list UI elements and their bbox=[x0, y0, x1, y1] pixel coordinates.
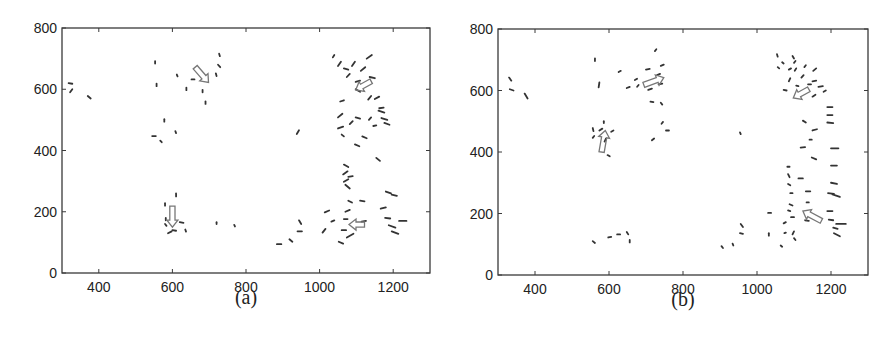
panel-caption-b: (b) bbox=[671, 288, 694, 311]
plot-area-b: 400600800100012000200400600800 bbox=[470, 21, 868, 297]
motion-vector bbox=[784, 222, 786, 223]
y-tick-label: 600 bbox=[470, 83, 494, 99]
motion-vector bbox=[790, 204, 793, 205]
motion-vector bbox=[740, 233, 743, 234]
motion-vector bbox=[593, 136, 594, 138]
motion-vector bbox=[619, 71, 621, 72]
motion-vector bbox=[813, 129, 817, 130]
motion-vector bbox=[788, 184, 790, 185]
motion-vector bbox=[331, 220, 334, 221]
motion-vector bbox=[805, 220, 809, 221]
panel-b: 400600800100012000200400600800 (b) bbox=[470, 21, 868, 311]
motion-vector bbox=[160, 141, 161, 143]
x-tick-label: 1200 bbox=[378, 279, 409, 295]
motion-vector bbox=[627, 232, 628, 234]
motion-vector bbox=[650, 102, 653, 103]
panel-caption-a: (a) bbox=[235, 286, 257, 309]
motion-vector bbox=[69, 83, 73, 84]
motion-vector bbox=[608, 237, 611, 238]
x-tick-label: 1000 bbox=[304, 279, 335, 295]
figure: 400600800100012000200400600800 (a) 40060… bbox=[0, 0, 893, 350]
motion-vector bbox=[829, 220, 833, 221]
motion-vector bbox=[655, 49, 656, 51]
motion-vector bbox=[356, 117, 360, 118]
motion-vector bbox=[648, 89, 652, 90]
motion-vector bbox=[824, 91, 826, 92]
motion-vector bbox=[175, 131, 176, 133]
motion-vector bbox=[635, 79, 637, 80]
motion-vector bbox=[373, 125, 376, 126]
motion-vector bbox=[348, 176, 352, 177]
motion-vector bbox=[165, 224, 166, 226]
x-tick-label: 600 bbox=[161, 279, 185, 295]
motion-vector bbox=[392, 195, 397, 196]
motion-vector bbox=[611, 130, 613, 131]
motion-vector bbox=[813, 81, 817, 82]
motion-vector bbox=[385, 218, 390, 219]
motion-vector bbox=[827, 122, 833, 123]
motion-vector bbox=[795, 68, 796, 70]
motion-vector bbox=[234, 225, 235, 227]
motion-vector bbox=[662, 122, 663, 124]
motion-vector bbox=[778, 67, 779, 68]
y-tick-label: 0 bbox=[485, 267, 493, 283]
y-tick-label: 400 bbox=[470, 144, 494, 160]
motion-vector bbox=[333, 55, 334, 57]
x-tick-label: 1000 bbox=[741, 281, 772, 297]
motion-vector bbox=[789, 68, 791, 69]
motion-vector bbox=[818, 86, 822, 87]
motion-vector bbox=[782, 62, 783, 63]
motion-vector bbox=[794, 238, 795, 240]
motion-vector bbox=[777, 54, 778, 56]
motion-vector bbox=[608, 155, 610, 156]
motion-vector bbox=[740, 132, 741, 134]
motion-vector bbox=[831, 183, 837, 184]
motion-vector bbox=[593, 128, 594, 131]
y-tick-label: 800 bbox=[470, 21, 494, 37]
motion-vector bbox=[661, 65, 664, 66]
x-tick-label: 1200 bbox=[815, 281, 846, 297]
y-tick-label: 0 bbox=[49, 265, 57, 281]
motion-vector bbox=[599, 83, 600, 88]
motion-vector bbox=[340, 100, 344, 101]
motion-vector bbox=[833, 228, 837, 229]
motion-vector bbox=[793, 56, 794, 58]
panel-a: 400600800100012000200400600800 (a) bbox=[34, 20, 430, 309]
y-tick-label: 200 bbox=[34, 204, 58, 220]
motion-vector bbox=[788, 210, 790, 211]
motion-vector bbox=[637, 85, 638, 87]
motion-vector bbox=[185, 230, 186, 232]
motion-vector bbox=[661, 103, 662, 105]
plot-area-a: 400600800100012000200400600800 bbox=[34, 20, 430, 295]
x-tick-label: 400 bbox=[523, 281, 547, 297]
motion-vector bbox=[216, 73, 217, 76]
motion-vector bbox=[370, 77, 375, 78]
y-tick-label: 600 bbox=[34, 81, 58, 97]
motion-vector bbox=[627, 87, 630, 88]
motion-vector bbox=[781, 245, 782, 246]
motion-vector bbox=[344, 68, 348, 69]
motion-vector bbox=[784, 233, 785, 234]
x-tick-label: 600 bbox=[597, 281, 621, 297]
motion-vector bbox=[381, 207, 386, 208]
motion-vector bbox=[794, 61, 795, 63]
y-tick-label: 200 bbox=[470, 206, 494, 222]
y-tick-label: 400 bbox=[34, 143, 58, 159]
motion-vector bbox=[801, 147, 805, 148]
motion-vector bbox=[784, 90, 787, 91]
y-tick-label: 800 bbox=[34, 20, 58, 36]
motion-vector bbox=[733, 244, 734, 246]
motion-vector bbox=[172, 230, 176, 231]
motion-vector bbox=[379, 108, 383, 109]
axes-frame bbox=[498, 29, 868, 275]
motion-vector bbox=[177, 75, 178, 77]
motion-vector bbox=[510, 89, 514, 90]
x-tick-label: 400 bbox=[87, 279, 111, 295]
motion-vector bbox=[219, 54, 220, 56]
motion-vector bbox=[180, 222, 184, 223]
motion-vector bbox=[360, 201, 364, 202]
motion-vector bbox=[804, 65, 805, 67]
motion-vector bbox=[646, 69, 650, 70]
motion-vector bbox=[796, 86, 798, 87]
motion-vector bbox=[721, 246, 722, 248]
